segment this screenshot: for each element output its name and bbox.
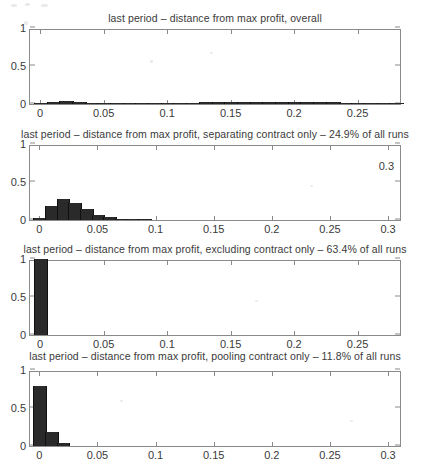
x-tick-mark bbox=[388, 442, 389, 446]
y-tick-mark-right bbox=[395, 65, 400, 66]
x-tick-label: 0.15 bbox=[203, 223, 224, 235]
x-tick-mark bbox=[330, 442, 331, 446]
y-tick-mark-right bbox=[395, 27, 400, 28]
histogram-bar bbox=[57, 443, 71, 446]
x-tick-mark-top bbox=[167, 30, 168, 34]
x-tick-label: 0.1 bbox=[159, 338, 174, 350]
y-tick-label: 0 bbox=[20, 98, 26, 110]
x-tick-mark-top bbox=[294, 261, 295, 265]
y-tick-label: 0.5 bbox=[11, 176, 26, 188]
x-tick-mark-top bbox=[330, 372, 331, 376]
x-tick-label: 0.05 bbox=[87, 223, 108, 235]
histogram-bar bbox=[138, 219, 152, 220]
x-tick-mark bbox=[272, 442, 273, 446]
y-tick-mark bbox=[30, 143, 35, 144]
histogram-bar bbox=[389, 103, 404, 104]
y-tick-label: 0 bbox=[20, 440, 26, 452]
x-tick-label: 0.2 bbox=[264, 223, 279, 235]
y-tick-mark bbox=[30, 65, 35, 66]
y-tick-label: 1 bbox=[20, 364, 26, 376]
x-tick-mark-top bbox=[39, 146, 40, 150]
plot-area-3: 00.5100.050.10.150.20.25 bbox=[29, 260, 401, 336]
x-tick-mark-top bbox=[156, 372, 157, 376]
x-tick-label: 0.05 bbox=[93, 338, 114, 350]
y-tick-label: 0 bbox=[20, 329, 26, 341]
x-tick-mark-top bbox=[97, 372, 98, 376]
chart-title-1: last period – distance from max profit, … bbox=[0, 12, 430, 24]
x-tick-mark-top bbox=[358, 30, 359, 34]
y-tick-label: 0.5 bbox=[11, 291, 26, 303]
chart-title-4: last period – distance from max profit, … bbox=[0, 350, 430, 362]
x-tick-label: 0.05 bbox=[87, 449, 108, 461]
chart-title-3: last period – distance from max profit, … bbox=[0, 243, 430, 255]
x-tick-label: 0 bbox=[37, 107, 43, 119]
x-tick-label: 0.2 bbox=[286, 338, 301, 350]
y-tick-mark-right bbox=[395, 181, 400, 182]
y-tick-label: 0.5 bbox=[11, 402, 26, 414]
scan-artifact bbox=[255, 300, 258, 302]
x-tick-label: 0.15 bbox=[220, 338, 241, 350]
scan-artifact bbox=[120, 400, 123, 402]
x-tick-mark bbox=[272, 216, 273, 220]
y-tick-mark-right bbox=[395, 219, 400, 220]
x-tick-mark-top bbox=[231, 261, 232, 265]
scan-artifact bbox=[25, 3, 30, 6]
x-tick-mark-top bbox=[388, 146, 389, 150]
x-tick-label: 0 bbox=[37, 338, 43, 350]
x-tick-label: 0.15 bbox=[220, 107, 241, 119]
scan-artifact bbox=[310, 185, 313, 187]
x-tick-label: 0.25 bbox=[319, 449, 340, 461]
x-tick-mark bbox=[167, 331, 168, 335]
x-tick-mark-top bbox=[40, 30, 41, 34]
x-tick-label: 0.2 bbox=[286, 107, 301, 119]
x-tick-label: 0.25 bbox=[347, 107, 368, 119]
y-tick-mark bbox=[30, 181, 35, 182]
histogram-bar bbox=[34, 259, 49, 335]
x-tick-label: 0.25 bbox=[347, 338, 368, 350]
x-tick-mark-top bbox=[231, 30, 232, 34]
x-tick-mark-top bbox=[330, 146, 331, 150]
plot-area-2: 00.5100.050.10.150.20.250.30.3 bbox=[29, 145, 401, 221]
x-tick-mark bbox=[231, 331, 232, 335]
y-tick-mark-right bbox=[395, 407, 400, 408]
x-tick-mark bbox=[388, 216, 389, 220]
x-tick-mark-top bbox=[156, 146, 157, 150]
x-tick-label: 0.25 bbox=[319, 223, 340, 235]
y-tick-label: 1 bbox=[20, 138, 26, 150]
x-tick-mark-top bbox=[358, 261, 359, 265]
x-tick-label: 0 bbox=[36, 449, 42, 461]
scan-artifact bbox=[11, 4, 17, 7]
scan-artifact bbox=[210, 52, 213, 54]
x-tick-mark-top bbox=[39, 372, 40, 376]
y-tick-mark-right bbox=[395, 143, 400, 144]
figure-canvas: last period – distance from max profit, … bbox=[0, 0, 430, 470]
x-tick-mark-top bbox=[104, 261, 105, 265]
x-tick-label: 0.1 bbox=[148, 449, 163, 461]
x-tick-mark bbox=[214, 216, 215, 220]
y-tick-label: 0.5 bbox=[11, 60, 26, 72]
x-tick-mark bbox=[156, 442, 157, 446]
chart-annotation: 0.3 bbox=[379, 160, 394, 172]
x-tick-mark bbox=[156, 216, 157, 220]
x-tick-mark bbox=[214, 442, 215, 446]
y-tick-mark-right bbox=[395, 258, 400, 259]
x-tick-mark bbox=[330, 216, 331, 220]
x-tick-mark bbox=[294, 331, 295, 335]
x-tick-label: 0.1 bbox=[148, 223, 163, 235]
x-tick-mark-top bbox=[214, 372, 215, 376]
y-tick-label: 0 bbox=[20, 214, 26, 226]
y-tick-label: 1 bbox=[20, 253, 26, 265]
chart-title-2: last period – distance from max profit, … bbox=[0, 128, 430, 140]
x-tick-mark-top bbox=[294, 30, 295, 34]
y-tick-mark-right bbox=[395, 296, 400, 297]
x-tick-mark bbox=[104, 331, 105, 335]
x-tick-label: 0.3 bbox=[380, 223, 395, 235]
scan-artifact bbox=[41, 4, 48, 7]
x-tick-label: 0 bbox=[36, 223, 42, 235]
x-tick-mark bbox=[97, 442, 98, 446]
x-tick-mark-top bbox=[272, 146, 273, 150]
x-tick-mark-top bbox=[97, 146, 98, 150]
x-tick-mark-top bbox=[104, 30, 105, 34]
y-tick-mark-right bbox=[395, 334, 400, 335]
x-tick-mark-top bbox=[388, 372, 389, 376]
